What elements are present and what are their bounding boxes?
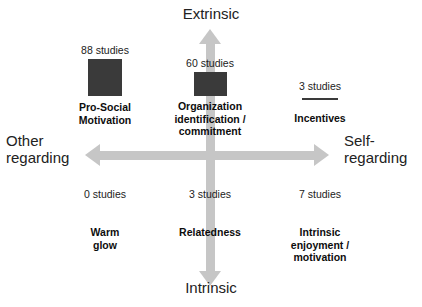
arrow-right-icon	[314, 144, 329, 166]
arrow-up-icon	[199, 29, 221, 44]
study-count-label: 88 studies	[81, 44, 129, 57]
quadrant-cell-intrinsic-enjoyment: 7 studies Intrinsic enjoyment / motivati…	[266, 188, 374, 264]
study-count-label: 3 studies	[189, 188, 231, 201]
study-count-bar	[302, 98, 338, 100]
quadrant-cell-incentives: 3 studies Incentives	[266, 80, 374, 125]
quadrant-term-label: Warm glow	[91, 226, 120, 251]
quadrant-cell-warm-glow: 0 studies Warm glow	[51, 188, 159, 251]
study-count-label: 0 studies	[84, 188, 126, 201]
study-count-label: 60 studies	[186, 57, 234, 70]
quadrant-cell-organization: 60 studies Organization identification /…	[156, 57, 264, 138]
quadrant-cell-pro-social: 88 studies Pro-Social Motivation	[51, 44, 159, 126]
axis-label-intrinsic: Intrinsic	[0, 279, 422, 296]
quadrant-term-label: Organization identification / commitment	[174, 100, 245, 138]
quadrant-term-label: Incentives	[294, 112, 345, 125]
quadrant-term-label: Pro-Social Motivation	[79, 101, 132, 126]
axis-label-other-regarding: Other regarding	[6, 132, 92, 166]
study-count-label: 3 studies	[299, 80, 341, 93]
quadrant-term-label: Relatedness	[179, 226, 241, 239]
axis-label-extrinsic: Extrinsic	[0, 5, 422, 22]
quadrant-cell-relatedness: 3 studies Relatedness	[156, 188, 264, 239]
axis-label-self-regarding: Self- regarding	[344, 132, 422, 166]
quadrant-term-label: Intrinsic enjoyment / motivation	[291, 226, 349, 264]
horizontal-axis-line	[98, 151, 316, 160]
study-count-bar	[88, 59, 122, 96]
study-count-bar	[194, 72, 227, 96]
study-count-label: 7 studies	[299, 188, 341, 201]
quadrant-diagram: Extrinsic Intrinsic Other regarding Self…	[0, 0, 422, 307]
